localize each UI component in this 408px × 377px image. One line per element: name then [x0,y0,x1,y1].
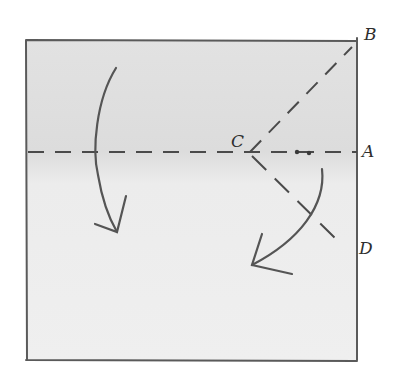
label-b: B [364,26,377,43]
paper-square [26,38,357,361]
diagram-canvas [0,0,408,377]
label-c: C [231,133,244,150]
label-a: A [362,143,374,160]
origami-diagram: B C A D [0,0,408,377]
label-d: D [359,240,373,257]
